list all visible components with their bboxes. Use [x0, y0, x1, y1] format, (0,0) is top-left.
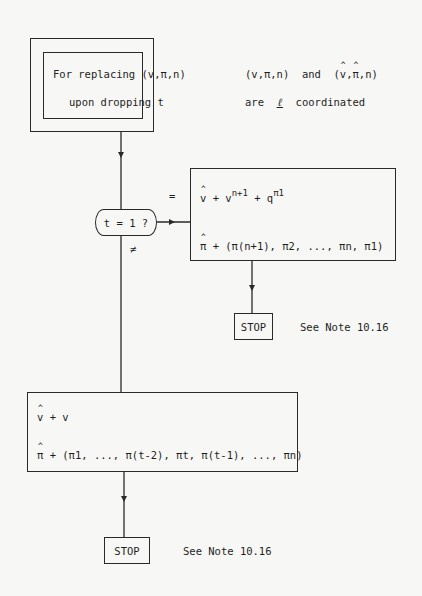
pi-hat: π: [353, 69, 359, 80]
are-word: are: [245, 96, 264, 108]
stop-1-note: See Note 10.16: [300, 322, 389, 333]
stop-2-note: See Note 10.16: [183, 546, 272, 557]
side-note-line-1: (v,π,n) and (v,π,n): [245, 69, 378, 80]
header-inner-box: [43, 52, 143, 119]
ell-symbol: ℓ: [277, 96, 283, 108]
and-word: and: [302, 68, 321, 80]
decision-label: t = 1 ?: [104, 217, 148, 229]
tuple-original: (v,π,n): [245, 68, 289, 80]
stop-box-1: STOP: [234, 313, 273, 340]
coordinated-word: coordinated: [296, 96, 366, 108]
not-equal-branch-label: ≠: [130, 244, 136, 255]
v-hat: v: [340, 69, 346, 80]
header-line-2: upon dropping t: [69, 97, 164, 108]
true-branch-pi-assignment: π + (π(n+1), π2, ..., πn, π1): [200, 241, 383, 252]
true-branch-v-assignment: v + vn+1 + qπ1: [200, 189, 284, 204]
header-line-1: For replacing (v,π,n): [53, 69, 186, 80]
stop-box-2: STOP: [104, 537, 150, 564]
equal-branch-label: =: [169, 191, 175, 202]
decision-t-equals-1: t = 1 ?: [95, 209, 157, 236]
false-branch-v-assignment: v + v: [37, 412, 69, 423]
side-note-line-2: are ℓ coordinated: [245, 97, 365, 108]
false-branch-pi-assignment: π + (π1, ..., π(t-2), πt, π(t-1), ..., π…: [37, 450, 303, 461]
